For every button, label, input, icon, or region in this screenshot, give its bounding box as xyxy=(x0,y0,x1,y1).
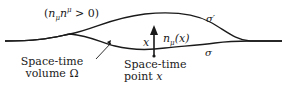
point-caption-line2: point x xyxy=(124,71,186,83)
spacetime-point-caption: Space-time point x xyxy=(124,59,186,83)
point-caption-var: x xyxy=(156,70,162,83)
timelike-condition-label: (nμnμ > 0) xyxy=(44,4,99,24)
sigma-label: σ xyxy=(205,47,212,59)
condition-n-upper: n xyxy=(60,7,67,20)
normal-vector-arrowhead xyxy=(150,25,158,35)
spacetime-volume-diagram: (nμnμ > 0) σ′ σ x nμ(x) Space-time volum… xyxy=(0,0,286,97)
condition-rest: > 0) xyxy=(72,7,100,20)
sigma-prime-label: σ′ xyxy=(206,13,215,25)
point-caption-text: point xyxy=(124,70,156,83)
volume-label-line2: volume Ω xyxy=(16,68,88,80)
normal-vector-label: nμ(x) xyxy=(163,33,189,49)
normal-argument: (x) xyxy=(175,32,190,45)
point-x-label: x xyxy=(143,37,149,49)
spacetime-volume-label: Space-time volume Ω xyxy=(16,56,88,80)
volume-leader-line xyxy=(96,43,111,59)
